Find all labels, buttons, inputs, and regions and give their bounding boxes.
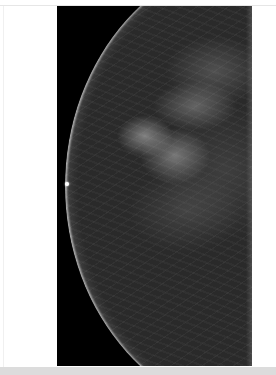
bottom-strip: [0, 367, 276, 375]
breast-tissue: [65, 6, 252, 366]
nipple-marker: [65, 182, 69, 186]
chest-wall-edge: [246, 6, 252, 366]
mammogram-image: [57, 6, 252, 366]
left-border-line: [3, 6, 4, 367]
